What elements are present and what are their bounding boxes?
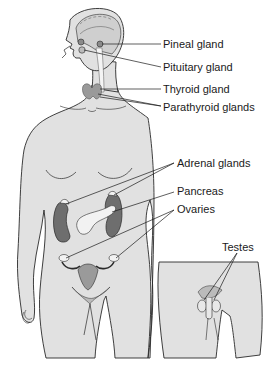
testis-left: [198, 300, 207, 312]
label-adrenal-glands: Adrenal glands: [177, 157, 250, 169]
ovary-right: [109, 255, 119, 262]
male-figure: [158, 262, 262, 358]
label-thyroid-gland: Thyroid gland: [163, 83, 230, 95]
label-pituitary-gland: Pituitary gland: [163, 61, 233, 73]
testis-right: [212, 300, 221, 312]
label-testes: Testes: [222, 241, 254, 253]
ovary-left: [59, 255, 69, 262]
label-parathyroid-glands: Parathyroid glands: [163, 101, 255, 113]
label-pineal-gland: Pineal gland: [163, 38, 224, 50]
body-illustration: [0, 0, 275, 371]
label-ovaries: Ovaries: [177, 203, 215, 215]
label-pancreas: Pancreas: [177, 185, 223, 197]
endocrine-diagram: Pineal gland Pituitary gland Thyroid gla…: [0, 0, 275, 371]
